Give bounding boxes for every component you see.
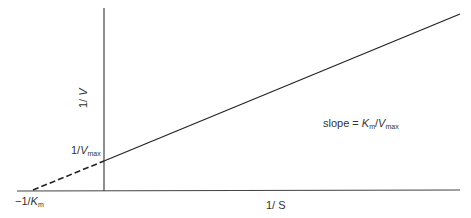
y-axis-label: 1/ V xyxy=(77,88,89,108)
x-intercept-sub: m xyxy=(38,201,44,208)
plot-area xyxy=(0,0,471,218)
y-axis-label-prefix: 1/ xyxy=(77,96,89,108)
y-intercept-var: V xyxy=(80,144,87,156)
x-axis xyxy=(17,190,460,191)
y-axis-label-var: V xyxy=(77,88,89,95)
slope-den-sub: max xyxy=(385,123,398,130)
y-intercept-sub: max xyxy=(88,150,101,157)
data-line-extrapolated xyxy=(33,161,104,190)
x-intercept-prefix: −1/ xyxy=(15,195,31,207)
slope-label: slope = Km/Vmax xyxy=(323,117,399,130)
y-intercept-prefix: 1/ xyxy=(71,144,80,156)
y-intercept-label: 1/Vmax xyxy=(71,144,101,157)
slope-prefix: slope = xyxy=(323,117,362,129)
x-axis-label: 1/ S xyxy=(266,199,286,211)
x-intercept-var: K xyxy=(31,195,38,207)
x-intercept-label: −1/Km xyxy=(15,195,44,208)
data-line-solid xyxy=(104,14,460,161)
